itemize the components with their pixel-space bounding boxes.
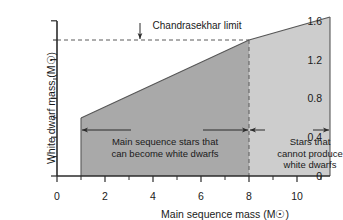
left-region-label-line2: can become white dwarfs [111,148,218,160]
right-region-label-line3: white dwarfs [277,159,343,171]
right-region-label-line1: Stars that [277,136,343,148]
y-axis-label: White dwarf mass (M☉) [45,52,57,164]
x-tick-label-6: 6 [198,190,204,202]
y-tick-label-1-6: 1.6 [307,15,322,27]
x-tick-label-8: 8 [246,190,252,202]
x-tick-label-0: 0 [54,190,60,202]
left-region-label-line1: Main sequence stars that [111,136,218,148]
y-tick-label-0-8: 0.8 [307,92,322,104]
y-tick-label-1-2: 1.2 [307,54,322,66]
x-tick-label-4: 4 [150,190,156,202]
y-tick-label-0: 0 [316,170,322,182]
plot-area: 0 0.4 0.8 1.2 1.6 0 2 4 6 8 10 White dwa… [57,12,330,176]
right-region-label-line2: cannot produce [277,148,343,160]
x-tick-label-2: 2 [102,190,108,202]
left-region-label: Main sequence stars that can become whit… [111,136,218,159]
right-region-label: Stars that cannot produce white dwarfs [277,136,343,171]
x-axis-label: Main sequence mass (M☉) [161,208,289,220]
x-tick-label-10: 10 [291,190,303,202]
chandrasekhar-limit-label: Chandrasekhar limit [153,20,242,32]
